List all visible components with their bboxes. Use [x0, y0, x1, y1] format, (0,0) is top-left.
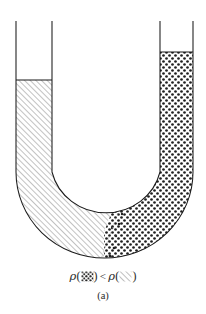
close-paren-right: )	[132, 269, 136, 283]
inner-wall	[52, 21, 160, 213]
less-than-symbol: <	[98, 270, 108, 282]
stipple-swatch-icon	[81, 271, 94, 282]
density-relation-caption: ρ( )<ρ( )	[0, 266, 206, 286]
hatch-swatch-icon	[119, 271, 132, 282]
subfigure-label: (a)	[0, 288, 206, 304]
figure-container: ρ( )<ρ( ) (a)	[0, 0, 206, 314]
